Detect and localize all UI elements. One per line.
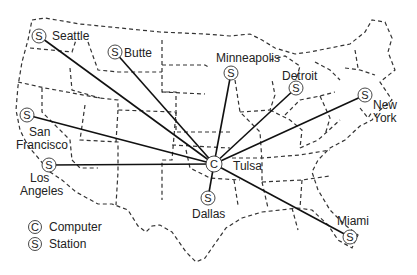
- link-miami: [214, 164, 350, 237]
- svg-text:S: S: [31, 238, 38, 250]
- label-new-york-1: New: [373, 98, 397, 112]
- station-butte: S: [108, 45, 122, 59]
- label-los-angeles-2: Angeles: [20, 184, 63, 198]
- label-los-angeles-1: Los: [30, 171, 49, 185]
- svg-text:C: C: [210, 158, 218, 170]
- label-detroit: Detroit: [282, 69, 318, 83]
- legend: C Computer S Station: [29, 220, 102, 251]
- label-miami: Miami: [337, 214, 369, 228]
- station-san-francisco: S: [20, 108, 34, 122]
- link-new-york: [214, 95, 365, 164]
- legend-computer-label: Computer: [49, 220, 102, 234]
- station-new-york: S: [358, 88, 372, 102]
- label-san-francisco-1: San: [29, 125, 50, 139]
- station-minneapolis: S: [224, 66, 238, 80]
- legend-station-icon: S: [29, 238, 42, 251]
- label-tulsa: Tulsa: [233, 159, 262, 173]
- link-los-angeles: [49, 164, 214, 165]
- svg-text:S: S: [361, 89, 368, 101]
- legend-station-label: Station: [49, 237, 86, 251]
- svg-text:S: S: [292, 82, 299, 94]
- svg-text:S: S: [204, 192, 211, 204]
- svg-text:S: S: [23, 109, 30, 121]
- link-butte: [115, 52, 214, 164]
- label-butte: Butte: [124, 46, 152, 60]
- svg-text:C: C: [31, 221, 39, 233]
- svg-text:S: S: [227, 67, 234, 79]
- station-miami: S: [343, 230, 357, 244]
- station-seattle: S: [32, 29, 46, 43]
- station-los-angeles: S: [42, 158, 56, 172]
- label-dallas: Dallas: [192, 207, 225, 221]
- label-seattle: Seattle: [52, 29, 90, 43]
- station-detroit: S: [289, 81, 303, 95]
- legend-computer-icon: C: [29, 221, 42, 234]
- station-dallas: S: [201, 191, 215, 205]
- svg-text:S: S: [35, 30, 42, 42]
- label-minneapolis: Minneapolis: [216, 51, 280, 65]
- network-map: S Seattle S Butte S Minneapolis S Detroi…: [0, 0, 417, 275]
- label-san-francisco-2: Francisco: [16, 138, 68, 152]
- svg-text:S: S: [111, 46, 118, 58]
- svg-text:S: S: [45, 159, 52, 171]
- label-new-york-2: York: [373, 111, 398, 125]
- computer-hub-tulsa: C: [206, 156, 222, 172]
- svg-text:S: S: [346, 231, 353, 243]
